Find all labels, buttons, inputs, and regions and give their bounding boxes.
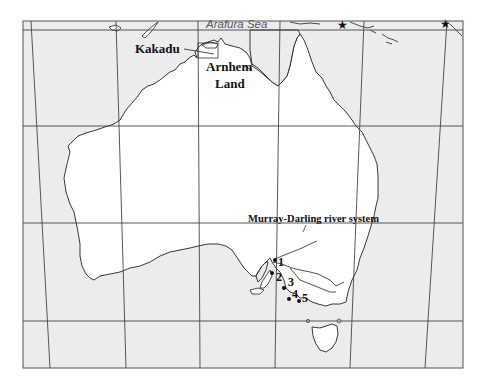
star-marker-1: ★ (337, 18, 348, 32)
arafura-sea-label: Arafura Sea (205, 18, 267, 30)
map-canvas: ★ ★ Arafura Sea Kakadu Arnhem Land Murra… (0, 0, 487, 383)
star-marker-2: ★ (440, 17, 451, 31)
arnhem-label-line2: Land (215, 76, 245, 91)
site-4-dot (287, 297, 291, 301)
site-1-dot (273, 258, 277, 262)
arnhem-label-line1: Arnhem (206, 59, 252, 74)
murray-darling-label: Murray-Darling river system (248, 213, 379, 224)
site-2-label: 2 (276, 270, 282, 284)
site-5-label: 5 (302, 291, 308, 305)
site-3-dot (282, 286, 286, 290)
site-4-label: 4 (292, 287, 298, 301)
site-5-dot (297, 299, 301, 303)
kakadu-label: Kakadu (135, 41, 180, 56)
australia-map: ★ ★ Arafura Sea Kakadu Arnhem Land Murra… (0, 0, 487, 383)
site-1-label: 1 (278, 255, 284, 269)
site-2-dot (270, 271, 274, 275)
